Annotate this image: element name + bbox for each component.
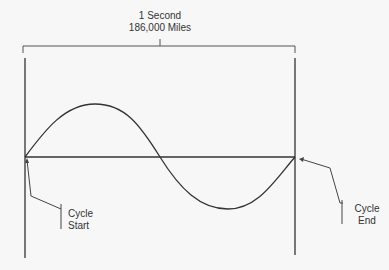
cycle-end-label: Cycle End — [350, 203, 384, 227]
cycle-start-label: Cycle Start — [68, 208, 108, 232]
duration-miles: 186,000 Miles — [125, 22, 195, 34]
sine-wave-diagram — [0, 0, 389, 270]
cycle-end-line2: End — [350, 215, 384, 227]
arrowhead-icon — [299, 157, 304, 162]
time-span-bracket — [23, 46, 295, 53]
cycle-start-leader — [27, 160, 61, 209]
cycle-start-line2: Start — [68, 220, 108, 232]
cycle-end-line1: Cycle — [350, 203, 384, 215]
cycle-start-line1: Cycle — [68, 208, 108, 220]
duration-label: 1 Second 186,000 Miles — [125, 10, 195, 34]
duration-seconds: 1 Second — [125, 10, 195, 22]
cycle-end-leader — [301, 159, 343, 203]
